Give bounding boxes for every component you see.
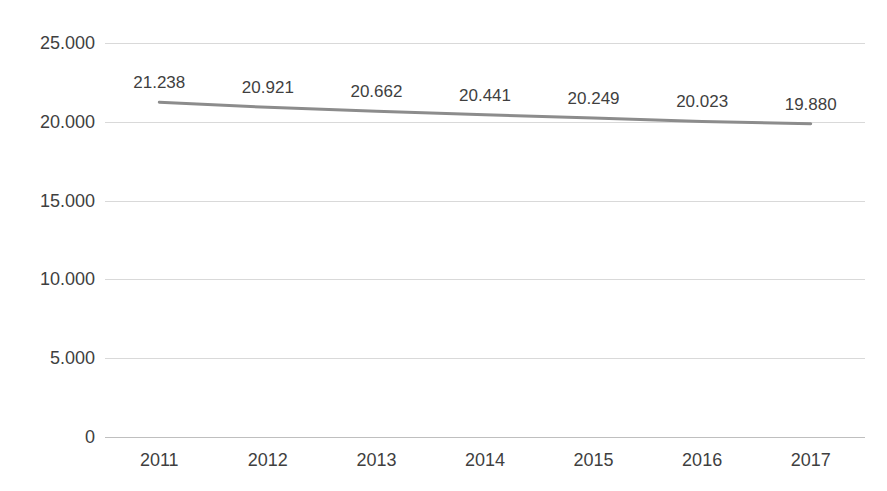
axis-baseline [105,437,865,438]
line-chart: 25.00020.00015.00010.0005.0000 21.23820.… [0,0,887,491]
y-axis-tick-label: 10.000 [0,270,95,288]
gridline [105,43,865,44]
y-axis-tick-label: 15.000 [0,192,95,210]
y-axis-tick-labels: 25.00020.00015.00010.0005.0000 [0,0,95,491]
y-axis-tick-label: 0 [0,428,95,446]
x-axis-tick-label: 2016 [657,449,747,471]
data-point-label: 20.249 [544,89,644,109]
y-axis-tick-label: 20.000 [0,113,95,131]
gridline [105,201,865,202]
data-point-label: 20.921 [218,78,318,98]
data-point-label: 20.662 [326,82,426,102]
x-axis-tick-label: 2014 [440,449,530,471]
gridline [105,122,865,123]
x-axis-tick-label: 2017 [766,449,856,471]
data-point-label: 20.441 [435,86,535,106]
y-axis-tick-label: 5.000 [0,349,95,367]
data-point-label: 20.023 [652,92,752,112]
x-axis-tick-label: 2013 [331,449,421,471]
y-axis-tick-label: 25.000 [0,34,95,52]
data-point-label: 19.880 [761,95,861,115]
gridline [105,358,865,359]
x-axis-tick-label: 2015 [549,449,639,471]
x-axis-tick-label: 2012 [223,449,313,471]
gridline [105,279,865,280]
data-point-label: 21.238 [109,73,209,93]
x-axis-tick-labels: 2011201220132014201520162017 [105,449,865,479]
x-axis-tick-label: 2011 [114,449,204,471]
